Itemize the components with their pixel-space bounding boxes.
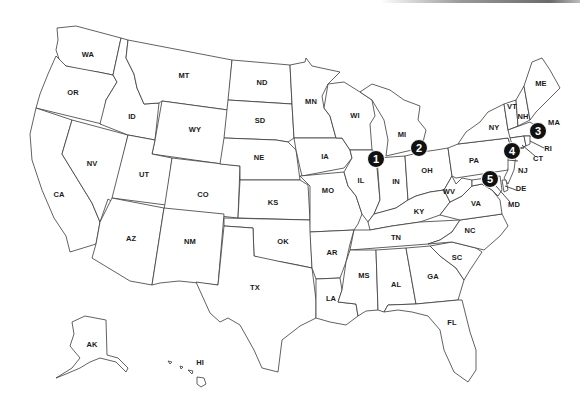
- state-label-nh: NH: [517, 112, 528, 121]
- leader-line-ct: [522, 145, 535, 156]
- us-map: WA OR CA NV ID MT WY UT CO AZ NM ND SD N…: [0, 0, 585, 415]
- marker-number: 1: [373, 153, 379, 165]
- marker-number: 3: [535, 125, 541, 137]
- state-label-il: IL: [358, 176, 365, 185]
- state-label-ma: MA: [548, 118, 560, 127]
- state-label-az: AZ: [126, 234, 137, 243]
- location-marker-5[interactable]: 5: [482, 171, 499, 188]
- state-label-ga: GA: [427, 272, 439, 281]
- state-label-mt: MT: [178, 71, 189, 80]
- state-label-in: IN: [392, 177, 400, 186]
- state-label-or: OR: [67, 88, 79, 97]
- marker-number: 4: [509, 145, 516, 157]
- state-label-me: ME: [535, 79, 546, 88]
- location-marker-1[interactable]: 1: [368, 151, 385, 168]
- state-label-ne: NE: [254, 153, 265, 162]
- location-marker-4[interactable]: 4: [504, 143, 521, 160]
- leader-line-ri: [530, 141, 544, 148]
- state-label-tn: TN: [391, 233, 401, 242]
- state-label-vt: VT: [507, 102, 517, 111]
- state-label-ut: UT: [139, 170, 150, 179]
- marker-number: 5: [487, 173, 493, 185]
- state-label-mo: MO: [322, 186, 334, 195]
- state-label-fl: FL: [447, 318, 457, 327]
- state-label-ar: AR: [326, 248, 338, 257]
- state-label-de: DE: [516, 184, 527, 193]
- state-label-sc: SC: [452, 253, 463, 262]
- state-label-mi: MI: [398, 130, 407, 139]
- state-label-id: ID: [128, 112, 136, 121]
- state-label-ca: CA: [53, 190, 65, 199]
- location-marker-3[interactable]: 3: [530, 123, 547, 140]
- state-label-wy: WY: [189, 125, 201, 134]
- state-label-ok: OK: [277, 237, 289, 246]
- state-label-tx: TX: [250, 283, 260, 292]
- state-label-ks: KS: [268, 198, 279, 207]
- state-label-wv: WV: [443, 187, 455, 196]
- state-label-sd: SD: [255, 116, 266, 125]
- state-label-ri: RI: [544, 144, 552, 153]
- state-label-wi: WI: [350, 111, 359, 120]
- state-shape-me: [524, 58, 560, 120]
- state-label-oh: OH: [421, 166, 432, 175]
- state-label-va: VA: [471, 199, 482, 208]
- location-marker-2[interactable]: 2: [411, 140, 428, 157]
- state-label-nv: NV: [87, 159, 98, 168]
- marker-number: 2: [416, 142, 422, 154]
- state-label-co: CO: [197, 190, 209, 199]
- state-label-ia: IA: [321, 152, 329, 161]
- state-label-wa: WA: [82, 50, 95, 59]
- state-label-ky: KY: [414, 207, 425, 216]
- state-label-la: LA: [326, 294, 337, 303]
- state-label-nc: NC: [464, 226, 476, 235]
- state-label-ak: AK: [86, 340, 98, 349]
- state-label-ms: MS: [358, 271, 369, 280]
- state-label-mn: MN: [305, 97, 317, 106]
- state-shape-nm: [152, 208, 224, 285]
- state-label-al: AL: [391, 280, 402, 289]
- state-label-ny: NY: [489, 123, 500, 132]
- state-shape-fl: [384, 300, 476, 382]
- state-label-pa: PA: [469, 156, 480, 165]
- state-label-nm: NM: [184, 237, 196, 246]
- state-label-nd: ND: [256, 78, 268, 87]
- state-label-hi: HI: [196, 358, 204, 367]
- state-label-nj: NJ: [518, 166, 528, 175]
